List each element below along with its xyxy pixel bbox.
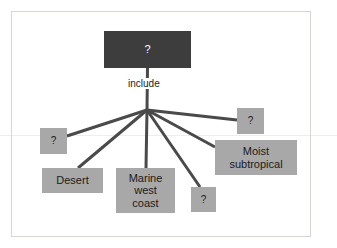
root-node-unknown[interactable]: ? bbox=[104, 31, 191, 68]
leaf-unknown-left[interactable]: ? bbox=[40, 128, 67, 154]
leaf-unknown-bottom-label: ? bbox=[199, 194, 209, 205]
diagram-canvas: ? include ?DesertMarine west coast?Moist… bbox=[0, 0, 337, 248]
leaf-unknown-right[interactable]: ? bbox=[237, 108, 264, 134]
edge-label-include: include bbox=[126, 78, 162, 89]
edge-label-text: include bbox=[128, 78, 160, 89]
leaf-desert[interactable]: Desert bbox=[42, 168, 103, 193]
leaf-desert-label: Desert bbox=[54, 174, 90, 186]
leaf-marine-west-coast-label: Marine west coast bbox=[127, 172, 165, 209]
leaf-unknown-right-label: ? bbox=[246, 115, 256, 126]
node-layer: ? include ?DesertMarine west coast?Moist… bbox=[0, 0, 337, 248]
leaf-unknown-bottom[interactable]: ? bbox=[191, 187, 216, 212]
leaf-unknown-left-label: ? bbox=[49, 135, 59, 146]
root-node-label: ? bbox=[142, 43, 152, 55]
leaf-moist-subtropical[interactable]: Moist subtropical bbox=[215, 140, 297, 175]
leaf-moist-subtropical-label: Moist subtropical bbox=[227, 145, 284, 170]
leaf-marine-west-coast[interactable]: Marine west coast bbox=[116, 168, 175, 213]
